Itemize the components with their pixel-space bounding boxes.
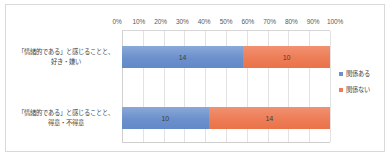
x-axis-tick-label: 50% [220, 18, 233, 25]
x-axis-tick-label: 20% [154, 18, 167, 25]
x-axis-tick-label: 80% [285, 18, 298, 25]
x-axis-tick-label: 90% [307, 18, 320, 25]
category-label-line: 「情緒的である」と感じることと、 [14, 108, 118, 118]
category-label-line: 好き・嫌い [14, 57, 118, 67]
x-axis-tick-label: 10% [132, 18, 145, 25]
x-axis-tick-label: 100% [327, 18, 343, 25]
legend-label: 関係ある [346, 69, 370, 78]
x-axis-tick-label: 0% [112, 18, 121, 25]
category-label-line: 「情緒的である」と感じることと、 [14, 47, 118, 57]
bar-value-label: 10 [161, 115, 169, 122]
category-label: 「情緒的である」と感じることと、好き・嫌い [14, 47, 118, 67]
gridline [330, 31, 331, 142]
x-axis-tick-label: 70% [263, 18, 276, 25]
bar-value-label: 14 [179, 54, 187, 61]
bar-row: 1410 [122, 46, 330, 68]
bar-segment: 14 [209, 107, 330, 129]
legend-swatch-icon [339, 88, 343, 92]
category-label-line: 得意・不得意 [14, 118, 118, 128]
legend-swatch-icon [339, 72, 343, 76]
x-axis-tick-label: 60% [241, 18, 254, 25]
x-axis-tick-label: 30% [176, 18, 189, 25]
bar-value-label: 14 [265, 115, 273, 122]
bar-value-label: 10 [283, 54, 291, 61]
bar-segment: 10 [243, 46, 330, 68]
bar-segment: 10 [122, 107, 209, 129]
bar-segment: 14 [122, 46, 243, 68]
legend-item[interactable]: 関係ない [339, 84, 389, 95]
x-axis-tick-labels: 0%10%20%30%40%50%60%70%80%90%100% [117, 18, 335, 28]
bar-row: 1014 [122, 107, 330, 129]
chart-legend: 関係ある関係ない [339, 68, 389, 100]
legend-label: 関係ない [346, 85, 370, 94]
x-axis-tick-label: 40% [198, 18, 211, 25]
chart-frame: 0%10%20%30%40%50%60%70%80%90%100% 141010… [5, 4, 385, 152]
legend-item[interactable]: 関係ある [339, 68, 389, 79]
category-label: 「情緒的である」と感じることと、得意・不得意 [14, 108, 118, 128]
plot-area: 14101014 [122, 30, 330, 143]
